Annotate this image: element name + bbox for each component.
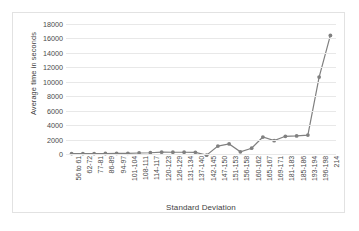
y-axis-tick-label: 18000 [43, 20, 63, 29]
x-axis-tick-label: 126-129 [176, 156, 183, 181]
x-axis-tick-label: 101-104 [131, 156, 138, 181]
x-axis-tick-label: 193-194 [311, 156, 318, 181]
y-axis-tick-label: 10000 [43, 77, 63, 86]
data-point-marker [295, 134, 299, 138]
x-axis-tick-label: 137-140 [198, 156, 205, 181]
x-axis-tick-label: 114-117 [153, 156, 160, 180]
x-axis-tick-labels: 56 to 6162-7277-8186-8994-97101-104108-1… [66, 156, 336, 202]
x-axis-tick-label: 120-123 [165, 156, 172, 181]
gridline [66, 82, 336, 83]
y-axis-tick-label: 12000 [43, 63, 63, 72]
plot-area [66, 24, 336, 154]
y-axis-tick-labels: 0200040006000800010000120001400016000180… [27, 13, 63, 212]
x-axis-title: Standard Deviation [66, 203, 336, 212]
y-axis-tick-label: 4000 [47, 121, 63, 130]
data-point-marker [328, 34, 332, 38]
y-axis-tick-label: 16000 [43, 34, 63, 43]
y-axis-tick-label: 14000 [43, 48, 63, 57]
x-axis-tick-label: 165-167 [266, 156, 273, 181]
data-point-marker [317, 75, 321, 79]
gridline [66, 38, 336, 39]
gridline [66, 111, 336, 112]
data-point-marker [261, 135, 265, 139]
x-axis-tick-label: 131-134 [187, 156, 194, 181]
data-point-marker [227, 142, 231, 146]
x-axis-tick-label: 94-97 [120, 156, 127, 173]
x-axis-tick-label: 142-145 [210, 156, 217, 181]
data-point-marker [283, 134, 287, 138]
x-axis-tick-label: 77-81 [97, 156, 104, 173]
chart-frame: Average time in seconds 0200040006000800… [12, 12, 345, 213]
line-series-svg [66, 24, 336, 154]
x-axis-tick-label: 196-198 [322, 156, 329, 181]
y-axis-tick-label: 6000 [47, 106, 63, 115]
data-point-marker [250, 146, 254, 150]
x-axis-tick-label: 214 [333, 156, 340, 167]
y-axis-tick-label: 2000 [47, 135, 63, 144]
gridline [66, 67, 336, 68]
x-axis-tick-label: 185-186 [300, 156, 307, 181]
x-axis-tick-label: 108-111 [142, 156, 149, 180]
x-axis-tick-label: 160-162 [255, 156, 262, 181]
y-axis-tick-label: 0 [59, 150, 63, 159]
x-axis-tick-label: 181-183 [288, 156, 295, 181]
gridline [66, 125, 336, 126]
x-axis-tick-label: 169-171 [277, 156, 284, 181]
data-point-marker [216, 144, 220, 148]
gridline [66, 53, 336, 54]
gridline [66, 140, 336, 141]
data-point-marker [306, 133, 310, 137]
gridline [66, 96, 336, 97]
y-axis-tick-label: 8000 [47, 92, 63, 101]
x-axis-tick-label: 86-89 [108, 156, 115, 173]
x-axis-tick-label: 156-158 [243, 156, 250, 181]
x-axis-tick-label: 56 to 61 [75, 156, 82, 181]
gridline [66, 154, 336, 155]
x-axis-tick-label: 151-153 [232, 156, 239, 181]
x-axis-tick-label: 62-72 [86, 156, 93, 173]
x-axis-tick-label: 147-150 [221, 156, 228, 181]
gridline [66, 24, 336, 25]
